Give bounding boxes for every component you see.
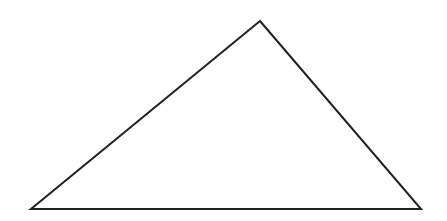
diagram-canvas xyxy=(0,0,447,221)
triangle-figure xyxy=(0,0,447,221)
triangle-shape xyxy=(31,21,421,209)
